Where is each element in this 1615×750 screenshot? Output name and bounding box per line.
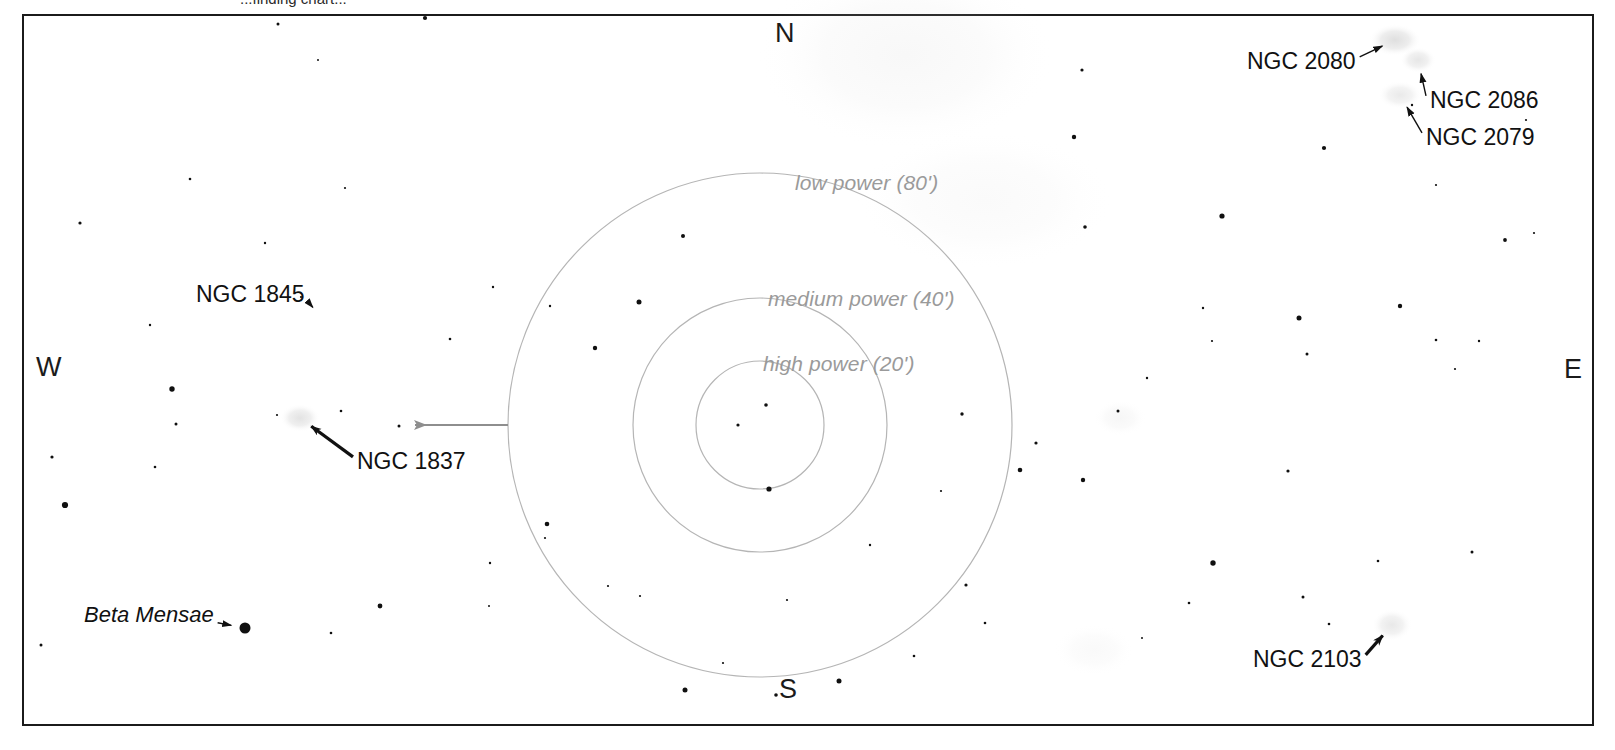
- star-dot: [607, 585, 609, 587]
- star-dot: [240, 623, 251, 634]
- star-dot: [913, 655, 916, 658]
- star-dot: [964, 583, 967, 586]
- star-dot: [78, 221, 81, 224]
- star-dot: [40, 644, 43, 647]
- star-dot: [774, 693, 778, 697]
- star-dot: [423, 16, 427, 20]
- star-dot: [1328, 623, 1331, 626]
- leader-arrow: [309, 303, 313, 308]
- object-label-ngc-1837: NGC 1837: [357, 450, 466, 473]
- star-dot: [681, 234, 685, 238]
- nebula-blob: [855, 130, 1115, 270]
- fov-circle-high: [696, 361, 824, 489]
- star-dot: [378, 604, 383, 609]
- star-dot: [276, 414, 278, 416]
- object-label-ngc-2079: NGC 2079: [1426, 126, 1535, 149]
- object-label-ngc-2103: NGC 2103: [1253, 648, 1362, 671]
- star-dot: [330, 632, 333, 635]
- star-dot: [1202, 307, 1204, 309]
- star-chart-canvas: ...finding chart... N S W E: [0, 0, 1615, 750]
- star-dot: [340, 410, 343, 413]
- star-dot: [1018, 468, 1023, 473]
- star-dot: [169, 386, 174, 391]
- star-dot: [175, 423, 178, 426]
- star-dot: [1533, 232, 1535, 234]
- star-dot: [1034, 441, 1037, 444]
- star-dot: [149, 324, 151, 326]
- compass-south-label: S: [779, 676, 797, 703]
- star-dot: [277, 23, 280, 26]
- star-dot: [189, 178, 192, 181]
- star-dot: [317, 59, 319, 61]
- compass-east-label: E: [1564, 356, 1582, 383]
- nebula-group: [280, 0, 1436, 676]
- star-dot: [488, 605, 490, 607]
- star-dot: [549, 305, 551, 307]
- leader-arrow: [1366, 636, 1383, 655]
- star-dot: [960, 412, 963, 415]
- star-dot: [1435, 184, 1437, 186]
- star-dot: [593, 346, 597, 350]
- leader-arrow-group: [218, 46, 1426, 655]
- star-dot: [1398, 304, 1402, 308]
- chart-graphics: [0, 0, 1615, 750]
- star-dot: [837, 679, 842, 684]
- star-dot: [344, 187, 346, 189]
- star-dot: [1471, 551, 1474, 554]
- star-dot: [639, 595, 641, 597]
- fov-circle-medium: [633, 298, 887, 552]
- object-label-ngc-2086: NGC 2086: [1430, 89, 1539, 112]
- leader-arrow: [1421, 74, 1426, 96]
- star-dot: [722, 662, 724, 664]
- star-dot: [1219, 213, 1224, 218]
- star-dot: [1141, 637, 1143, 639]
- star-dot: [1478, 340, 1480, 342]
- star-dot: [50, 455, 53, 458]
- nebula-blob: [1400, 47, 1436, 73]
- star-dot: [1286, 469, 1289, 472]
- nebula-blob: [1378, 81, 1422, 109]
- star-dot: [1435, 339, 1438, 342]
- fov-label-medium: medium power (40'): [768, 288, 955, 309]
- star-dot: [786, 599, 788, 601]
- star-dot: [154, 466, 157, 469]
- leader-arrow: [1407, 107, 1422, 133]
- star-dot: [1454, 368, 1456, 370]
- star-dot: [489, 562, 491, 564]
- star-dot: [1210, 560, 1215, 565]
- object-label-ngc-2080: NGC 2080: [1247, 50, 1356, 73]
- compass-west-label: W: [36, 354, 61, 381]
- object-label-ngc-1845: NGC 1845: [196, 283, 305, 306]
- leader-arrow: [218, 623, 232, 626]
- star-dot: [869, 544, 871, 546]
- nebula-blob: [1372, 609, 1412, 641]
- star-dot: [1081, 478, 1085, 482]
- star-dot: [264, 242, 266, 244]
- fov-label-low: low power (80'): [795, 172, 938, 193]
- star-dot: [544, 537, 546, 539]
- star-dot: [1083, 225, 1087, 229]
- star-dot: [683, 688, 688, 693]
- star-dot: [984, 622, 987, 625]
- nebula-blob: [1094, 400, 1146, 436]
- star-dot: [1146, 377, 1148, 379]
- star-dot: [1072, 135, 1076, 139]
- star-dot: [1080, 68, 1083, 71]
- compass-north-label: N: [775, 20, 795, 47]
- star-dot: [1211, 340, 1213, 342]
- star-dot: [545, 522, 550, 527]
- star-dot: [764, 403, 768, 407]
- star-dot: [1306, 353, 1309, 356]
- star-dot: [398, 425, 401, 428]
- leader-arrow: [311, 426, 353, 457]
- star-dot: [1302, 596, 1305, 599]
- star-dot: [637, 300, 642, 305]
- star-dot: [766, 486, 771, 491]
- star-dot: [1188, 602, 1191, 605]
- star-dot: [1503, 238, 1507, 242]
- star-dot: [449, 338, 452, 341]
- star-dot: [1411, 104, 1413, 106]
- star-dot: [62, 502, 68, 508]
- object-label-beta-mensae: Beta Mensae: [84, 604, 214, 626]
- star-dot: [1525, 119, 1527, 121]
